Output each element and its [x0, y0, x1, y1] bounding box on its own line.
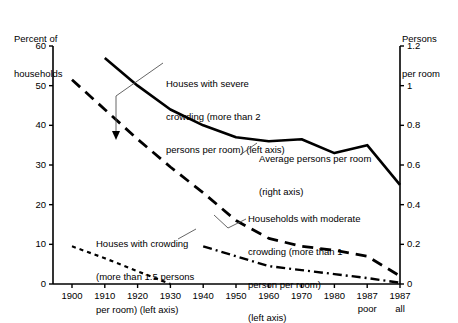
- left-tick-label: 40: [0, 119, 46, 130]
- series-line: [203, 246, 400, 282]
- x-tick-label: 1970: [285, 290, 319, 301]
- x-tick-label: 1950: [219, 290, 253, 301]
- left-tick-label: 60: [0, 40, 46, 51]
- leader-crowding: [178, 229, 196, 239]
- leader-moderate: [214, 215, 246, 228]
- tick-layer: [49, 46, 404, 288]
- x-tick-sublabel: poor: [350, 303, 384, 314]
- right-tick-label: 1: [407, 80, 412, 91]
- right-tick-label: 0.4: [407, 199, 420, 210]
- x-tick-label: 1980: [317, 290, 351, 301]
- leader-lines: [112, 63, 257, 239]
- right-tick-label: 0: [407, 278, 412, 289]
- right-tick-label: 0.8: [407, 119, 420, 130]
- x-tick-label: 1920: [121, 290, 155, 301]
- x-tick-label: 1987: [383, 290, 417, 301]
- right-tick-label: 0.2: [407, 238, 420, 249]
- leader-arrowhead: [112, 131, 120, 140]
- right-tick-label: 0.6: [407, 159, 420, 170]
- x-tick-label: 1930: [153, 290, 187, 301]
- x-tick-label: 1940: [186, 290, 220, 301]
- chart-canvas: [0, 0, 458, 323]
- left-tick-label: 20: [0, 199, 46, 210]
- leader-average: [240, 143, 257, 155]
- left-tick-label: 30: [0, 159, 46, 170]
- series-line: [105, 58, 400, 185]
- series-line: [72, 246, 170, 284]
- right-tick-label: 1.2: [407, 40, 420, 51]
- left-tick-label: 50: [0, 80, 46, 91]
- x-tick-label: 1987: [350, 290, 384, 301]
- axis-layer: [53, 46, 400, 284]
- x-tick-label: 1960: [252, 290, 286, 301]
- x-tick-label: 1900: [55, 290, 89, 301]
- left-tick-label: 10: [0, 238, 46, 249]
- x-tick-sublabel: all: [383, 303, 417, 314]
- chart-figure: Percent of households Persons per room H…: [0, 0, 458, 323]
- series-line: [72, 80, 400, 276]
- left-tick-label: 0: [0, 278, 46, 289]
- x-tick-label: 1910: [88, 290, 122, 301]
